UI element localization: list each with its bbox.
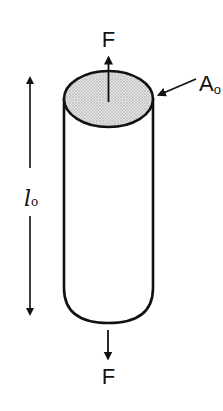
area-symbol: A [199, 71, 214, 96]
length-symbol: l [24, 186, 31, 211]
length-subscript: o [31, 195, 38, 209]
cylinder-specimen [64, 71, 153, 323]
area-subscript: o [214, 82, 221, 97]
top-force-label: F [102, 27, 115, 52]
area-leader-arrow [161, 79, 196, 94]
cylinder-body-outline [64, 98, 153, 323]
area-label: Ao [199, 71, 221, 97]
bottom-force-label: F [102, 364, 115, 389]
tensile-specimen-diagram: F F Ao lo [0, 0, 223, 411]
length-label: lo [24, 186, 38, 211]
